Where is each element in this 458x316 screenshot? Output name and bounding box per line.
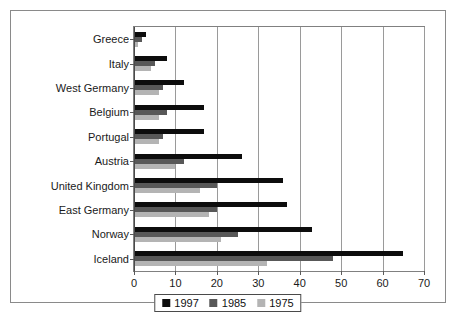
bar-1975 (134, 66, 151, 71)
bar-group: West Germany (134, 76, 424, 100)
bar-1975 (134, 261, 267, 266)
bar-1975 (134, 237, 221, 242)
x-axis-tick (217, 271, 218, 275)
bar-group: Belgium (134, 100, 424, 124)
x-axis-tick-label: 70 (418, 277, 430, 289)
x-axis-tick-label: 20 (211, 277, 223, 289)
category-label: West Germany (56, 82, 129, 93)
legend-swatch-icon (210, 299, 218, 307)
gridline (424, 27, 425, 271)
legend-swatch-icon (162, 299, 170, 307)
x-axis-tick (424, 271, 425, 275)
bar-group: Iceland (134, 247, 424, 271)
category-label: Iceland (94, 253, 129, 264)
category-label: Italy (109, 58, 129, 69)
chart-screenshot: GreeceItalyWest GermanyBelgiumPortugalAu… (0, 0, 458, 316)
value-axis-line (134, 27, 135, 271)
legend-swatch-icon (257, 299, 265, 307)
bar-group: Greece (134, 27, 424, 51)
category-label: Greece (93, 34, 129, 45)
legend-label: 1975 (269, 297, 293, 309)
legend-label: 1985 (222, 297, 246, 309)
figure-frame: GreeceItalyWest GermanyBelgiumPortugalAu… (10, 10, 446, 303)
x-axis-tick (258, 271, 259, 275)
bar-group: East Germany (134, 198, 424, 222)
bar-group: Austria (134, 149, 424, 173)
category-label: East Germany (59, 204, 129, 215)
bar-1975 (134, 212, 209, 217)
category-label: Portugal (88, 131, 129, 142)
bar-1975 (134, 188, 200, 193)
x-axis-tick (134, 271, 135, 275)
x-axis-tick-label: 50 (335, 277, 347, 289)
x-axis-tick (300, 271, 301, 275)
legend-entry: 1985 (210, 297, 246, 309)
bar-group: Italy (134, 51, 424, 75)
x-axis-tick-label: 60 (376, 277, 388, 289)
bar-1975 (134, 115, 159, 120)
legend-entry: 1975 (257, 297, 293, 309)
bar-groups: GreeceItalyWest GermanyBelgiumPortugalAu… (134, 27, 424, 271)
x-axis-tick (383, 271, 384, 275)
category-label: Belgium (89, 107, 129, 118)
bar-group: United Kingdom (134, 173, 424, 197)
legend-entry: 1997 (162, 297, 198, 309)
bar-1975 (134, 164, 175, 169)
bar-group: Portugal (134, 125, 424, 149)
category-label: United Kingdom (51, 180, 129, 191)
category-label: Austria (95, 156, 129, 167)
bar-1975 (134, 90, 159, 95)
x-axis-tick (341, 271, 342, 275)
bar-1975 (134, 139, 159, 144)
x-axis-tick (175, 271, 176, 275)
legend-label: 1997 (174, 297, 198, 309)
plot-area: GreeceItalyWest GermanyBelgiumPortugalAu… (133, 26, 425, 272)
x-axis-tick-label: 30 (252, 277, 264, 289)
legend: 199719851975 (154, 294, 301, 312)
category-label: Norway (92, 229, 129, 240)
x-axis-tick-label: 0 (131, 277, 137, 289)
x-axis-tick-label: 10 (169, 277, 181, 289)
x-axis-tick-label: 40 (294, 277, 306, 289)
bar-group: Norway (134, 222, 424, 246)
